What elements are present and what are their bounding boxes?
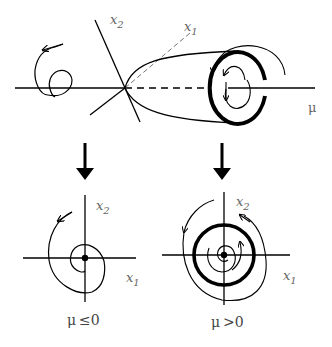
left-spiral-inner (49, 70, 72, 97)
caption-mu-gt-0: μ>0 (211, 314, 244, 330)
x2-axis-label: x2 (110, 12, 124, 30)
spiral-arrowhead (58, 212, 72, 221)
x2-axis-label: x2 (96, 198, 110, 216)
outer-flow-arrow (213, 46, 285, 75)
x1-axis-label: x1 (184, 19, 198, 37)
right-down-arrow (213, 143, 231, 180)
inner-ring-flow-lower (225, 80, 250, 108)
stable-focus-point (82, 255, 88, 261)
paraboloid-top-edge (125, 51, 236, 88)
top-bifurcation-view: μ x2 x1 (15, 12, 316, 124)
x1-axis-label: x1 (283, 268, 297, 286)
x2-axis-label: x2 (236, 194, 250, 212)
unstable-focus-point (221, 252, 227, 258)
inner-ring-flow (224, 66, 245, 80)
x1-axis-label: x1 (126, 270, 140, 288)
phase-portrait-mu-le-0: x2 x1 μ≤0 (23, 195, 140, 328)
mu-axis-label: μ (308, 100, 316, 115)
inner-spiral-trajectory (208, 246, 236, 272)
phase-portrait-mu-gt-0: x2 x1 μ>0 (162, 192, 297, 330)
hopf-bifurcation-diagram: μ x2 x1 (0, 0, 332, 347)
x1-axis-solid-back (90, 88, 125, 115)
left-spiral-arrowhead (43, 44, 63, 50)
spiral-trajectory (49, 212, 105, 293)
caption-mu-le-0: μ≤0 (67, 312, 100, 328)
left-down-arrow (76, 143, 94, 180)
